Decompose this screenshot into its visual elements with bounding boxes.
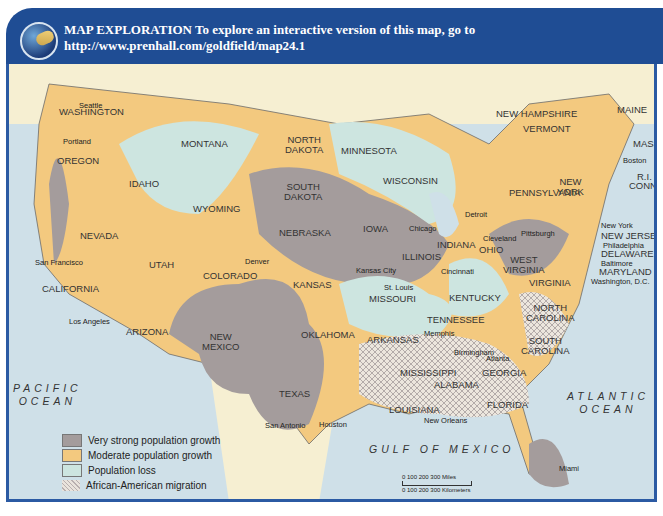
legend-label: Very strong population growth [88,435,220,446]
state-north-carolina: NORTH CAROLINA [526,303,575,323]
state-alabama: ALABAMA [434,380,479,390]
city-washington-dc: Washington, D.C. [591,277,650,287]
city-cincinnati: Cincinnati [441,267,474,277]
state-virginia: VIRGINIA [529,278,571,288]
state-west-virginia: WEST VIRGINIA [503,255,545,275]
city-houston: Houston [319,420,347,430]
state-new-hampshire: NEW HAMPSHIRE [496,109,577,119]
state-texas: TEXAS [279,389,310,399]
city-memphis: Memphis [424,329,454,339]
atlantic-ocean-label: ATLANTIC OCEAN [567,390,649,416]
state-nebraska: NEBRASKA [279,228,331,238]
city-pittsburgh: Pittsburgh [521,229,555,239]
state-south-carolina: SOUTH CAROLINA [521,336,570,356]
city-seattle: Seattle [79,101,102,111]
legend-item: Very strong population growth [62,433,220,448]
city-philadelphia: Philadelphia [603,241,644,251]
pacific-ocean-label: PACIFIC OCEAN [13,382,82,408]
city-chicago: Chicago [409,224,437,234]
state-florida: FLORIDA [487,400,528,410]
city-portland: Portland [63,137,91,147]
state-vermont: VERMONT [523,124,571,134]
globe-icon [20,22,58,60]
city-san-francisco: San Francisco [35,258,83,268]
city-atlanta: Atlanta [486,354,509,364]
state-idaho: IDAHO [129,179,159,189]
state-georgia: GEORGIA [482,368,526,378]
legend-swatch-moderate [62,449,82,462]
state-wisconsin: WISCONSIN [383,176,438,186]
state-mass: MASS. [633,139,657,149]
legend-label: African-American migration [86,480,207,491]
state-north-dakota: NORTH DAKOTA [285,135,323,155]
header-title-line1: MAP EXPLORATION To explore an interactiv… [64,22,475,38]
state-oklahoma: OKLAHOMA [301,330,355,340]
state-california: CALIFORNIA [42,284,99,294]
state-south-dakota: SOUTH DAKOTA [284,182,322,202]
gulf-of-mexico-label: GULF OF MEXICO [369,443,514,456]
city-denver: Denver [245,257,269,267]
state-colorado: COLORADO [203,271,257,281]
state-utah: UTAH [149,260,174,270]
city-los-angeles: Los Angeles [69,317,110,327]
map-header: MAP EXPLORATION To explore an interactiv… [6,8,663,64]
state-ohio: OHIO [479,245,503,255]
header-url[interactable]: http://www.prenhall.com/goldfield/map24.… [64,38,475,54]
state-wyoming: WYOMING [193,204,241,214]
legend-swatch-very-strong [62,434,82,447]
state-new-york: NEW YORK [557,177,584,197]
city-san-antonio: San Antonio [265,421,305,431]
state-new-jersey: NEW JERSEY [601,231,657,241]
scale-bar: 0 100 200 300 Miles 0 100 200 300 Kilome… [402,474,472,493]
scale-miles: 0 100 200 300 Miles [402,474,472,480]
state-minnesota: MINNESOTA [341,146,397,156]
state-maine: MAINE [617,105,647,115]
state-arkansas: ARKANSAS [367,335,419,345]
legend-item: African-American migration [62,478,220,493]
city-boston: Boston [623,156,646,166]
state-montana: MONTANA [181,139,228,149]
state-illinois: ILLINOIS [402,252,441,262]
state-conn: CONN. [629,181,657,191]
legend-label: Population loss [88,465,156,476]
map-legend: Very strong population growth Moderate p… [62,433,220,493]
city-kansas-city: Kansas City [356,266,396,276]
city-miami: Miami [559,464,579,474]
state-arizona: ARIZONA [126,327,168,337]
state-nevada: NEVADA [80,231,118,241]
migration-arrow-icon [62,480,80,491]
state-iowa: IOWA [363,224,388,234]
city-new-york: New York [601,221,633,231]
state-kansas: KANSAS [293,280,332,290]
state-indiana: INDIANA [437,240,476,250]
state-louisiana: LOUISIANA [389,405,440,415]
city-st-louis: St. Louis [384,283,413,293]
legend-item: Population loss [62,463,220,478]
header-title: MAP EXPLORATION To explore an interactiv… [64,22,475,54]
state-kentucky: KENTUCKY [449,293,501,303]
scale-km: 0 100 200 300 Kilometers [402,487,472,493]
city-detroit: Detroit [465,210,487,220]
scale-line [402,481,472,486]
city-cleveland: Cleveland [483,234,516,244]
state-missouri: MISSOURI [369,294,416,304]
legend-label: Moderate population growth [88,450,212,461]
legend-item: Moderate population growth [62,448,220,463]
state-new-mexico: NEW MEXICO [202,332,239,352]
state-oregon: OREGON [57,156,99,166]
city-new-orleans: New Orleans [424,416,467,426]
city-baltimore: Baltimore [601,259,633,269]
state-mississippi: MISSISSIPPI [400,368,457,378]
state-tennessee: TENNESSEE [427,315,485,325]
legend-swatch-loss [62,464,82,477]
